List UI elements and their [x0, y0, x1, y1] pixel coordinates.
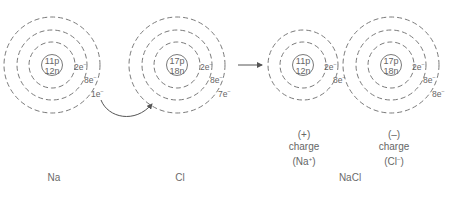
na-ion-shell-1-count: 2e–: [324, 61, 336, 72]
na-ion-neutrons: 12n: [292, 66, 314, 76]
na-ion-charge-word: charge: [284, 141, 324, 153]
electron-transfer-arrow: [101, 100, 152, 116]
na-nucleus-label: 11p 12n: [41, 56, 63, 76]
cl-shell-3-count: 7e–: [218, 88, 230, 99]
na-ion-shell-2-count: 8e–: [333, 74, 345, 85]
cl-ion-shell-2-count: 8e–: [423, 74, 435, 85]
cl-ion-nucleus-label: 17p 18n: [380, 56, 402, 76]
na-ion-charge-label: (+) charge (Na+): [284, 129, 324, 168]
cl-shell-1-count: 2e–: [200, 61, 212, 72]
cl-nucleus-label: 17p 18n: [166, 56, 188, 76]
na-ion-name: (Na+): [284, 153, 324, 168]
cl-ion-protons: 17p: [380, 56, 402, 66]
na-shell-1-count: 2e–: [74, 61, 86, 72]
cl-neutrons: 18n: [166, 66, 188, 76]
nacl-label: NaCl: [330, 172, 370, 183]
cl-shell-2-count: 8e–: [210, 74, 222, 85]
cl-ion-charge-word: charge: [374, 141, 414, 153]
na-ion-protons: 11p: [292, 56, 314, 66]
diagram-canvas: [0, 0, 450, 212]
cl-ion-charge-label: (–) charge (Cl–): [374, 129, 414, 168]
cl-ion-shell-1-count: 2e–: [412, 61, 424, 72]
cl-ion-name: (Cl–): [374, 153, 414, 168]
na-protons: 11p: [41, 56, 63, 66]
cl-label: Cl: [170, 172, 190, 183]
cl-protons: 17p: [166, 56, 188, 66]
na-neutrons: 12n: [41, 66, 63, 76]
na-ion-sign: (+): [284, 129, 324, 141]
na-label: Na: [42, 172, 66, 183]
na-shell-3-count: 1e–: [91, 88, 103, 99]
cl-ion-neutrons: 18n: [380, 66, 402, 76]
na-shell-2-count: 8e–: [84, 74, 96, 85]
cl-ion-shell-3-count: 8e–: [432, 88, 444, 99]
cl-ion-sign: (–): [374, 129, 414, 141]
na-ion-nucleus-label: 11p 12n: [292, 56, 314, 76]
